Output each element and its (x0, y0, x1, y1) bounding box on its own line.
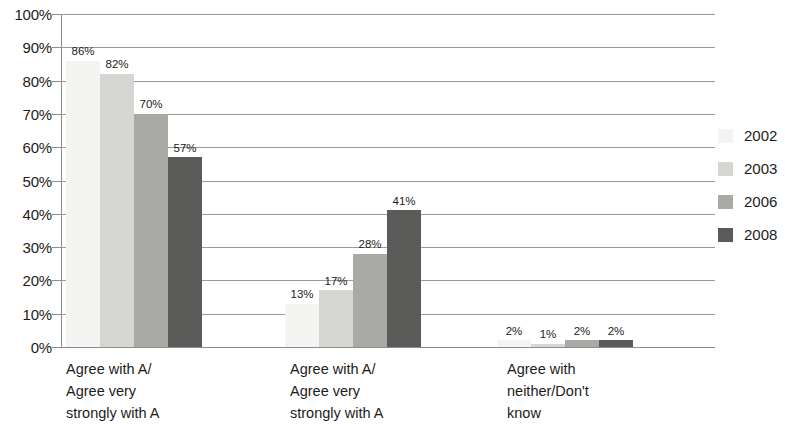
bar[interactable] (387, 210, 421, 347)
legend-item[interactable]: 2008 (718, 225, 785, 258)
legend-label: 2003 (744, 159, 777, 179)
legend-swatch-icon (718, 195, 733, 209)
y-axis-tick-label: 90% (23, 40, 52, 55)
bar-value-label: 2% (590, 326, 642, 338)
bar-value-label: 41% (378, 196, 430, 208)
y-axis-tick-label: 70% (23, 106, 52, 121)
plot-area: 86%82%70%57%13%17%28%41%2%1%2%2% (61, 14, 715, 347)
y-axis-tick-label: 0% (31, 340, 52, 355)
y-axis-tick-label: 40% (23, 206, 52, 221)
y-axis-tick-label: 50% (23, 173, 52, 188)
y-axis-tick-label: 80% (23, 73, 52, 88)
legend-item[interactable]: 2003 (718, 159, 785, 192)
legend-item[interactable]: 2002 (718, 126, 785, 159)
y-axis-tick-mark (52, 280, 61, 281)
bar-group: 2%1%2%2% (497, 14, 633, 347)
bar[interactable] (168, 157, 202, 347)
legend: 2002200320062008 (718, 126, 785, 258)
bar-slot: 2% (497, 14, 531, 347)
x-axis-category-label: Agree with neither/Don't know (507, 358, 589, 424)
bar-slot: 2% (599, 14, 633, 347)
bar[interactable] (497, 340, 531, 347)
y-axis-tick-mark (52, 14, 61, 15)
bar-slot: 13% (285, 14, 319, 347)
y-axis-tick-label: 20% (23, 273, 52, 288)
legend-item[interactable]: 2006 (718, 192, 785, 225)
legend-swatch-icon (718, 129, 733, 143)
y-axis-tick-mark (52, 347, 61, 348)
x-axis-category-label: Agree with A/ Agree very strongly with A (66, 358, 160, 424)
bar-slot: 82% (100, 14, 134, 347)
legend-swatch-icon (718, 228, 733, 242)
y-axis-tick-mark (52, 114, 61, 115)
bar-slot: 2% (565, 14, 599, 347)
bar-slot: 70% (134, 14, 168, 347)
bar[interactable] (100, 74, 134, 347)
bar-slot: 28% (353, 14, 387, 347)
bar[interactable] (599, 340, 633, 347)
y-axis-tick-mark (52, 81, 61, 82)
bar[interactable] (531, 344, 565, 347)
bar-chart: 100%90%80%70%60%50%40%30%20%10%0% 86%82%… (0, 0, 785, 442)
y-axis-tick-label: 10% (23, 306, 52, 321)
legend-swatch-icon (718, 162, 733, 176)
x-axis-category-labels: Agree with A/ Agree very strongly with A… (0, 358, 785, 442)
y-axis-tick-mark (52, 214, 61, 215)
bar-slot: 57% (168, 14, 202, 347)
bar-value-label: 57% (159, 143, 211, 155)
y-axis-tick-mark (52, 314, 61, 315)
legend-label: 2006 (744, 192, 777, 212)
bar-slot: 17% (319, 14, 353, 347)
y-axis-tick-label: 60% (23, 140, 52, 155)
bar[interactable] (353, 254, 387, 347)
bar-slot: 41% (387, 14, 421, 347)
bar-slot: 1% (531, 14, 565, 347)
bar[interactable] (319, 290, 353, 347)
bar-group: 13%17%28%41% (285, 14, 421, 347)
y-axis-tick-label: 30% (23, 240, 52, 255)
bar[interactable] (66, 61, 100, 347)
y-axis-tick-mark (52, 247, 61, 248)
bar[interactable] (285, 304, 319, 347)
y-axis-tick-label: 100% (14, 7, 52, 22)
y-axis-tick-mark (52, 147, 61, 148)
y-axis: 100%90%80%70%60%50%40%30%20%10%0% (0, 0, 60, 360)
x-axis-category-label: Agree with A/ Agree very strongly with A (290, 358, 384, 424)
y-axis-tick-mark (52, 181, 61, 182)
bar[interactable] (565, 340, 599, 347)
bar-group: 86%82%70%57% (66, 14, 202, 347)
axis-baseline (61, 347, 715, 348)
legend-label: 2008 (744, 225, 777, 245)
legend-label: 2002 (744, 126, 777, 146)
